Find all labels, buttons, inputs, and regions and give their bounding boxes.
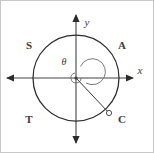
quadrant-label-cosine: C xyxy=(118,113,126,125)
x-axis-right-arrowhead-icon xyxy=(126,74,134,81)
terminal-point-marker xyxy=(106,110,111,115)
unit-circle-diagram: x y θ S A T C xyxy=(1,1,154,153)
figure-container: x y θ S A T C xyxy=(0,0,154,153)
theta-sweep-arc xyxy=(81,59,106,85)
x-axis-label: x xyxy=(137,64,143,76)
y-axis-bottom-arrowhead-icon xyxy=(72,136,79,144)
quadrant-label-sine: S xyxy=(26,39,32,51)
origin-point xyxy=(74,76,77,79)
y-axis-label: y xyxy=(84,16,90,28)
theta-label: θ xyxy=(62,56,67,67)
terminal-ray xyxy=(76,78,109,113)
quadrant-label-tangent: T xyxy=(25,113,33,125)
quadrant-label-all: A xyxy=(118,39,126,51)
x-axis-left-arrowhead-icon xyxy=(6,74,14,81)
y-axis-top-arrowhead-icon xyxy=(72,14,79,22)
